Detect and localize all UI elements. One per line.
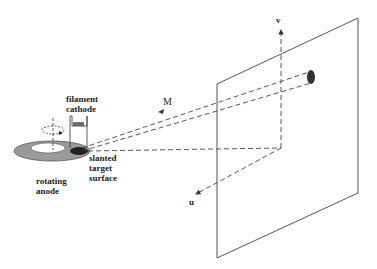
- detector-plane: [217, 18, 358, 258]
- target-label: target: [89, 163, 112, 173]
- beam-upper: [82, 72, 309, 148]
- xray-geometry-diagram: [0, 0, 377, 269]
- magnification-arrow-icon: [158, 109, 164, 114]
- axis-v-label: v: [276, 15, 281, 25]
- filament-label: filament: [66, 94, 98, 104]
- cathode-label: cathode: [66, 104, 96, 114]
- projected-spot: [307, 70, 315, 84]
- surface-label: surface: [89, 173, 117, 183]
- anode-label: anode: [36, 186, 59, 196]
- rotating-label: rotating: [36, 176, 67, 186]
- magnification-label: M: [163, 97, 172, 107]
- axis-u: [196, 148, 281, 194]
- beam-lower: [82, 83, 311, 151]
- axis-u-label: u: [189, 197, 194, 207]
- central-ray: [88, 148, 281, 151]
- focal-spot: [70, 147, 88, 155]
- rotating-anode: [14, 141, 90, 161]
- slanted-label: slanted: [89, 153, 117, 163]
